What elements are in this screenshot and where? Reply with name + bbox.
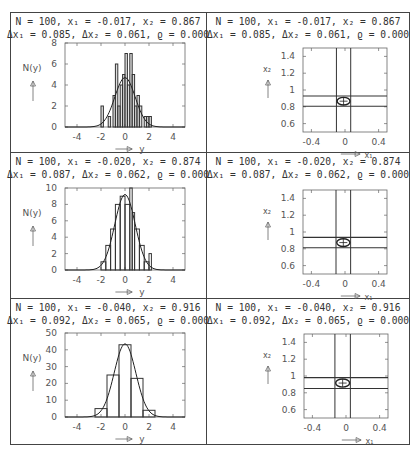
y-tick-label: 10 [46, 183, 58, 193]
x-tick-label: 0.4 [372, 423, 387, 433]
header-line1: N = 100, x₁ = -0.040, x₂ = 0.916 [216, 302, 401, 313]
y-tick-label: 1.2 [282, 354, 296, 364]
y-tick-label: 4 [51, 80, 57, 90]
x-axis-label: x₁ [366, 437, 374, 446]
histogram-chart-3: -4-202401020304050N(y)y [22, 328, 185, 444]
y-tick-label: 1 [289, 227, 295, 237]
y-tick-label: 10 [46, 395, 58, 405]
figure-canvas: N = 100, x₁ = -0.017, x₂ = 0.867Δx₁ = 0.… [0, 0, 416, 455]
x-axis-label: y [139, 287, 145, 297]
confidence-region-chart-3: -0.400.40.60.811.21.4x₂x₁ [263, 334, 388, 446]
x-tick-label: -0.4 [303, 137, 321, 147]
header-line1: N = 100, x₁ = -0.040, x₂ = 0.916 [16, 302, 201, 313]
y-tick-label: 6 [51, 59, 57, 69]
y-tick-label: 20 [46, 378, 58, 388]
y-tick-label: 6 [51, 216, 57, 226]
x-tick-label: -4 [73, 422, 82, 432]
plot-area [303, 190, 387, 274]
y-axis-label: N(y) [22, 63, 41, 73]
panel-header-scatter-1: N = 100, x₁ = -0.017, x₂ = 0.867Δx₁ = 0.… [207, 16, 409, 40]
y-tick-label: 30 [46, 362, 58, 372]
panel-header-hist-3: N = 100, x₁ = -0.040, x₂ = 0.916Δx₁ = 0.… [7, 302, 209, 326]
header-line1: N = 100, x₁ = -0.020, x₂ = 0.874 [216, 156, 401, 167]
y-tick-label: 1.2 [281, 68, 295, 78]
y-axis-label: x₂ [263, 207, 271, 216]
y-axis-label: x₂ [263, 65, 271, 74]
histogram-bar [101, 262, 106, 270]
histogram-bar [108, 117, 110, 128]
y-tick-label: 8 [51, 38, 57, 48]
y-tick-label: 0 [51, 122, 57, 132]
histogram-bar [111, 229, 116, 270]
y-tick-label: 2 [51, 249, 57, 259]
y-axis-label: N(y) [22, 208, 41, 218]
y-tick-label: 0.8 [281, 102, 296, 112]
y-axis-label: N(y) [22, 353, 41, 363]
x-tick-label: -0.4 [303, 279, 321, 289]
y-tick-label: 1.4 [281, 51, 296, 61]
header-line1: N = 100, x₁ = -0.020, x₂ = 0.874 [16, 156, 201, 167]
x-tick-label: 0.4 [371, 137, 386, 147]
y-tick-label: 8 [51, 199, 57, 209]
x-axis-label: x₁ [365, 151, 373, 160]
histogram-bar [107, 375, 119, 417]
y-tick-label: 50 [46, 328, 58, 338]
y-tick-label: 1 [290, 371, 296, 381]
panel-header-scatter-3: N = 100, x₁ = -0.040, x₂ = 0.916Δx₁ = 0.… [207, 302, 409, 326]
x-tick-label: 2 [146, 132, 152, 142]
y-tick-label: 1 [289, 85, 295, 95]
x-tick-label: -0.4 [304, 423, 322, 433]
header-line2: Δx₁ = 0.085, Δx₂ = 0.061, ϱ = 0.000 [207, 29, 409, 40]
histogram-bar [131, 378, 143, 417]
plot-area [304, 334, 388, 418]
x-tick-label: 0.4 [371, 279, 386, 289]
header-line1: N = 100, x₁ = -0.017, x₂ = 0.867 [216, 16, 401, 27]
confidence-region-chart-2: -0.400.40.60.811.21.4x₂x₁ [263, 190, 387, 302]
y-tick-label: 0.8 [281, 244, 296, 254]
y-tick-label: 1.4 [282, 337, 297, 347]
header-line2: Δx₁ = 0.085, Δx₂ = 0.061, ϱ = 0.000 [7, 29, 209, 40]
y-tick-label: 1.2 [281, 210, 295, 220]
x-axis-label: y [139, 434, 145, 444]
x-tick-label: 2 [146, 275, 152, 285]
plot-area [65, 333, 185, 417]
panel-header-hist-2: N = 100, x₁ = -0.020, x₂ = 0.874Δx₁ = 0.… [7, 156, 209, 180]
x-tick-label: 4 [170, 422, 176, 432]
x-tick-label: 0 [122, 132, 128, 142]
header-line2: Δx₁ = 0.092, Δx₂ = 0.065, ϱ = 0.000 [207, 315, 409, 326]
header-line2: Δx₁ = 0.092, Δx₂ = 0.065, ϱ = 0.000 [7, 315, 209, 326]
histogram-chart-2: -4-20240246810N(y)y [22, 183, 185, 297]
histogram-bar [120, 196, 125, 270]
y-tick-label: 0.6 [281, 119, 296, 129]
header-line1: N = 100, x₁ = -0.017, x₂ = 0.867 [16, 16, 201, 27]
x-tick-label: 4 [170, 275, 176, 285]
panel-header-hist-1: N = 100, x₁ = -0.017, x₂ = 0.867Δx₁ = 0.… [7, 16, 209, 40]
x-tick-label: -2 [97, 422, 106, 432]
y-axis-label: x₂ [263, 351, 271, 360]
x-tick-label: 0 [342, 137, 348, 147]
y-tick-label: 0.6 [282, 405, 297, 415]
y-tick-label: 0.6 [281, 261, 296, 271]
header-line2: Δx₁ = 0.087, Δx₂ = 0.062, ϱ = 0.000 [7, 169, 209, 180]
x-tick-label: -2 [97, 275, 106, 285]
histogram-bar [144, 262, 149, 270]
x-tick-label: 0 [122, 275, 128, 285]
histogram-bar [125, 204, 130, 270]
x-tick-label: 0 [342, 279, 348, 289]
y-tick-label: 0 [51, 412, 57, 422]
y-tick-label: 0 [51, 265, 57, 275]
y-tick-label: 2 [51, 101, 57, 111]
x-tick-label: -4 [73, 275, 82, 285]
panel-header-scatter-2: N = 100, x₁ = -0.020, x₂ = 0.874Δx₁ = 0.… [207, 156, 409, 180]
header-line2: Δx₁ = 0.087, Δx₂ = 0.062, ϱ = 0.000 [207, 169, 409, 180]
x-tick-label: -4 [73, 132, 82, 142]
x-tick-label: -2 [97, 132, 106, 142]
histogram-bar [135, 229, 140, 270]
x-tick-label: 4 [170, 132, 176, 142]
y-tick-label: 4 [51, 232, 57, 242]
y-tick-label: 40 [46, 345, 58, 355]
plot-area [303, 48, 387, 132]
histogram-bar [119, 345, 131, 417]
x-tick-label: 0 [122, 422, 128, 432]
confidence-region-chart-1: -0.400.40.60.811.21.4x₂x₁ [263, 48, 387, 160]
